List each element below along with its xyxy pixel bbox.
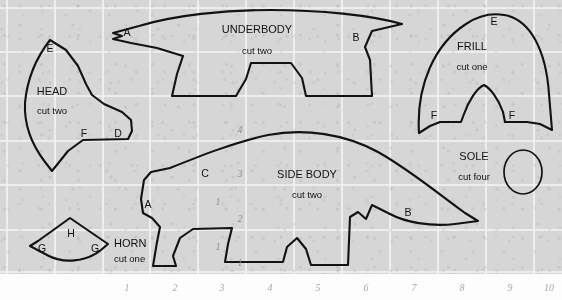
vertical-scale-number-4: 4 <box>238 124 243 135</box>
horizontal-scale-numbers: 12345678910 <box>125 282 555 293</box>
pattern-piece-side-body: SIDE BODY cut two C A B <box>141 132 478 266</box>
head-mark-e: E <box>46 42 53 54</box>
pattern-sheet: HEAD cut two E F D UNDERBODY cut two A B… <box>0 0 562 300</box>
horn-outline <box>30 218 108 261</box>
pattern-piece-head: HEAD cut two E F D <box>25 40 132 171</box>
head-cut-label: cut two <box>37 105 67 116</box>
sole-title: SOLE <box>459 150 488 162</box>
horn-mark-h: H <box>67 227 75 239</box>
horizontal-scale-number-5: 5 <box>316 282 321 293</box>
inner-scale-marks: 11 <box>216 196 221 252</box>
head-mark-f: F <box>81 127 87 139</box>
frill-mark-f-right: F <box>509 109 515 121</box>
frill-cut-label: cut one <box>456 61 487 72</box>
pattern-piece-frill: FRILL cut one E F F <box>419 14 552 133</box>
inner-scale-mark-1: 1 <box>216 196 221 207</box>
frill-mark-f-left: F <box>431 109 437 121</box>
inner-scale-mark-1: 1 <box>216 241 221 252</box>
vertical-scale-numbers: 4321 <box>237 124 243 268</box>
head-title: HEAD <box>37 85 68 97</box>
side-body-mark-a: A <box>144 198 151 210</box>
frill-outline <box>419 14 552 133</box>
pattern-piece-sole: SOLE cut four <box>458 150 542 194</box>
horn-mark-g-right: G <box>91 242 99 254</box>
side-body-mark-b: B <box>404 206 411 218</box>
underbody-mark-a: A <box>123 26 130 38</box>
sole-cut-label: cut four <box>458 171 490 182</box>
frill-mark-e: E <box>490 15 497 27</box>
horizontal-scale-number-10: 10 <box>544 282 554 293</box>
frill-title: FRILL <box>457 40 487 52</box>
horizontal-scale-number-2: 2 <box>173 282 178 293</box>
side-body-title: SIDE BODY <box>277 168 338 180</box>
side-body-mark-c: C <box>201 167 209 179</box>
sole-outline <box>504 150 542 194</box>
horn-cut-label: cut one <box>114 253 145 264</box>
pattern-pieces-layer: HEAD cut two E F D UNDERBODY cut two A B… <box>0 0 562 300</box>
horn-title: HORN <box>114 237 146 249</box>
pattern-piece-horn: HORN cut one H G G <box>30 218 146 264</box>
horizontal-scale-number-1: 1 <box>125 282 130 293</box>
vertical-scale-number-1: 1 <box>238 257 243 268</box>
pattern-piece-underbody: UNDERBODY cut two A B <box>113 10 402 96</box>
horizontal-scale-number-7: 7 <box>412 282 418 293</box>
underbody-title: UNDERBODY <box>222 23 293 35</box>
vertical-scale-number-2: 2 <box>238 213 243 224</box>
horizontal-scale-number-4: 4 <box>268 282 273 293</box>
horizontal-scale-number-9: 9 <box>508 282 513 293</box>
horizontal-scale-number-8: 8 <box>460 282 465 293</box>
horizontal-scale-number-3: 3 <box>219 282 225 293</box>
vertical-scale-number-3: 3 <box>237 168 243 179</box>
horizontal-scale-number-6: 6 <box>364 282 369 293</box>
horn-mark-g-left: G <box>38 242 46 254</box>
head-mark-d: D <box>114 127 122 139</box>
underbody-cut-label: cut two <box>242 45 272 56</box>
underbody-mark-b: B <box>352 31 359 43</box>
side-body-cut-label: cut two <box>292 189 322 200</box>
